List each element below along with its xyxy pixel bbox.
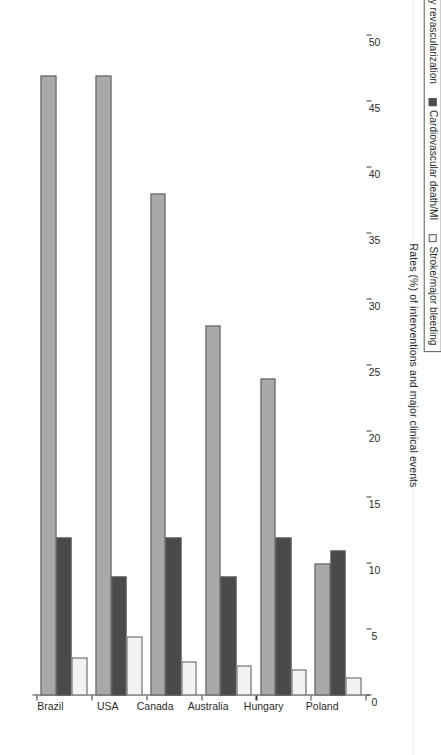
bar bbox=[71, 657, 87, 695]
legend-label: Stroke/major bleeding bbox=[427, 246, 437, 345]
legend-label: Any revascularization bbox=[427, 0, 437, 83]
value-axis-tick-label: 40 bbox=[368, 167, 380, 179]
bar bbox=[111, 576, 127, 695]
value-axis-tick-label: 35 bbox=[368, 233, 380, 245]
category-axis-tick bbox=[365, 695, 366, 700]
bar bbox=[291, 669, 307, 695]
chart-legend: Any revascularizationCardiovascular deat… bbox=[423, 0, 441, 352]
bar bbox=[330, 550, 346, 695]
plot-area: 50454035302520151050 BrazilUSACanadaAust… bbox=[36, 35, 365, 695]
legend-item[interactable]: Any revascularization bbox=[427, 0, 437, 83]
value-axis-tick-label: 15 bbox=[368, 497, 380, 509]
value-axis-tick-label: 25 bbox=[368, 365, 380, 377]
category-axis-label: Australia bbox=[187, 699, 228, 711]
bar bbox=[181, 661, 197, 695]
bar bbox=[40, 75, 56, 695]
bar bbox=[260, 378, 276, 695]
bar bbox=[275, 537, 291, 695]
category-axis-label: Hungary bbox=[243, 699, 283, 711]
value-axis-tick-label: 50 bbox=[368, 35, 380, 47]
legend-item[interactable]: Cardiovascular death/MI bbox=[427, 97, 437, 219]
category-axis-label: Brazil bbox=[37, 699, 63, 711]
value-axis-tick-label: 5 bbox=[371, 629, 377, 641]
bar bbox=[56, 537, 72, 695]
value-axis-tick bbox=[366, 694, 371, 695]
bar bbox=[95, 75, 111, 695]
category-axis-label: USA bbox=[97, 699, 119, 711]
bar bbox=[165, 537, 181, 695]
bar bbox=[345, 677, 361, 695]
bar bbox=[236, 665, 252, 695]
category-axis-label: Poland bbox=[305, 699, 338, 711]
value-axis-title: Rates (%) of interventions and major cli… bbox=[407, 243, 419, 487]
bar bbox=[220, 576, 236, 695]
bar bbox=[126, 636, 142, 695]
value-axis-tick-label: 30 bbox=[368, 299, 380, 311]
category-axis-tick bbox=[91, 695, 92, 700]
value-axis-tick-label: 10 bbox=[368, 563, 380, 575]
bar bbox=[150, 193, 166, 695]
legend-item[interactable]: Stroke/major bleeding bbox=[427, 234, 437, 345]
legend-label: Cardiovascular death/MI bbox=[427, 109, 437, 219]
value-axis-tick-label: 20 bbox=[368, 431, 380, 443]
category-axis-label: Canada bbox=[136, 699, 173, 711]
value-axis-tick-label: 45 bbox=[368, 101, 380, 113]
value-axis-tick bbox=[366, 628, 371, 629]
legend-swatch-icon bbox=[428, 97, 436, 105]
bar bbox=[314, 563, 330, 695]
bar bbox=[205, 325, 221, 695]
legend-swatch-icon bbox=[428, 234, 436, 242]
value-axis-tick-label: 0 bbox=[371, 695, 377, 707]
